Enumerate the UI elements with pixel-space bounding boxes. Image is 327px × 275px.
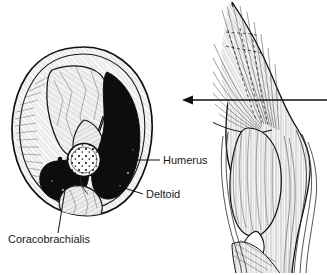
upper-arm-cross-section <box>12 47 152 224</box>
label-coracobrachialis: Coracobrachialis <box>8 233 90 245</box>
humerus-bone <box>68 144 101 177</box>
anatomy-illustration-svg: Humerus Deltoid Coracobrachialis <box>0 0 327 275</box>
anatomy-figure: Humerus Deltoid Coracobrachialis <box>0 0 327 275</box>
arrow-head <box>182 96 193 105</box>
label-humerus: Humerus <box>163 154 208 166</box>
label-deltoid: Deltoid <box>146 188 180 200</box>
biceps-brachii-belly <box>230 128 281 237</box>
lateral-arm-illustration <box>211 2 317 274</box>
